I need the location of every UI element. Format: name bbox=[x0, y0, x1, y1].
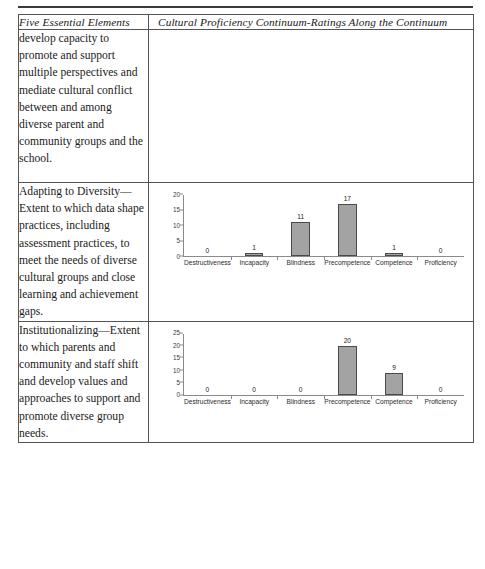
bar-value-label: 0 bbox=[206, 387, 210, 394]
y-axis-tick-label: 10 bbox=[173, 368, 180, 374]
bar-value-label: 0 bbox=[206, 248, 210, 255]
bar-value-label: 1 bbox=[392, 245, 396, 252]
x-axis-tick-label: Precompetence bbox=[324, 399, 371, 406]
y-axis-tick-mark bbox=[180, 345, 183, 346]
y-axis-tick-label: 10 bbox=[173, 223, 180, 229]
y-axis-tick-mark bbox=[180, 225, 183, 226]
bar-slot: 0 bbox=[277, 334, 324, 395]
plot-area: 05101520250002090 bbox=[183, 334, 464, 396]
x-axis-tick-label: Blindness bbox=[278, 260, 325, 267]
y-axis-tick-label: 20 bbox=[173, 343, 180, 349]
bar-slot: 17 bbox=[324, 195, 371, 256]
y-axis-tick-label: 20 bbox=[173, 192, 180, 198]
bar-value-label: 9 bbox=[392, 365, 396, 372]
y-axis-tick-label: 15 bbox=[173, 207, 180, 213]
table-row: Institutionalizing—Extent to which paren… bbox=[19, 321, 474, 442]
bar-slot: 0 bbox=[417, 195, 464, 256]
element-description-0: develop capacity to promote and support … bbox=[19, 30, 149, 183]
bar-slot: 1 bbox=[371, 195, 418, 256]
bar-slot: 1 bbox=[231, 195, 278, 256]
x-axis-tick-label: Destructiveness bbox=[184, 399, 231, 406]
bar-slot: 20 bbox=[324, 334, 371, 395]
table-header-row: Five Essential Elements Cultural Profici… bbox=[19, 15, 474, 30]
bar-chart-adapting-to-diversity: 0510152001111710DestructivenessIncapacit… bbox=[149, 183, 474, 275]
bar bbox=[245, 253, 264, 256]
bar-value-label: 0 bbox=[439, 387, 443, 394]
bar-value-label: 0 bbox=[439, 248, 443, 255]
chart-cell-adapting-to-diversity: 0510152001111710DestructivenessIncapacit… bbox=[149, 183, 474, 322]
bar-value-label: 0 bbox=[252, 387, 256, 394]
bar-group: 01111710 bbox=[184, 195, 464, 256]
bar-value-label: 11 bbox=[297, 214, 304, 221]
x-axis-tick-label: Precompetence bbox=[324, 260, 371, 267]
bar-chart-institutionalizing: 05101520250002090DestructivenessIncapaci… bbox=[149, 322, 474, 414]
x-axis-tick-label: Competence bbox=[371, 399, 418, 406]
y-axis-tick-mark bbox=[180, 357, 183, 358]
x-axis-tick-label: Blindness bbox=[278, 399, 325, 406]
cultural-proficiency-table: Five Essential Elements Cultural Profici… bbox=[18, 14, 474, 443]
element-description-1: Adapting to Diversity—Extent to which da… bbox=[19, 183, 149, 322]
x-axis-tick-label: Destructiveness bbox=[184, 260, 231, 267]
y-axis-tick-mark bbox=[180, 369, 183, 370]
table-container: Five Essential Elements Cultural Profici… bbox=[18, 14, 473, 443]
x-axis-labels: DestructivenessIncapacityBlindnessPrecom… bbox=[184, 260, 464, 267]
bar bbox=[338, 204, 357, 256]
y-axis-tick-mark bbox=[180, 240, 183, 241]
bar bbox=[385, 253, 404, 256]
y-axis-tick-mark bbox=[180, 394, 183, 395]
x-axis-tick-label: Incapacity bbox=[231, 260, 278, 267]
chart-cell-institutionalizing: 05101520250002090DestructivenessIncapaci… bbox=[149, 321, 474, 442]
bar-slot: 0 bbox=[417, 334, 464, 395]
y-axis-tick-label: 15 bbox=[173, 355, 180, 361]
bar-slot: 11 bbox=[277, 195, 324, 256]
element-description-2: Institutionalizing—Extent to which paren… bbox=[19, 321, 149, 442]
bar-value-label: 20 bbox=[344, 338, 351, 345]
y-axis-tick-mark bbox=[180, 194, 183, 195]
y-axis-tick-mark bbox=[180, 382, 183, 383]
bar-value-label: 17 bbox=[344, 196, 351, 203]
bar-value-label: 0 bbox=[299, 387, 303, 394]
plot-area: 0510152001111710 bbox=[183, 195, 464, 257]
bar-slot: 0 bbox=[231, 334, 278, 395]
bar bbox=[385, 373, 404, 395]
bar-slot: 9 bbox=[371, 334, 418, 395]
x-axis-tick-label: Competence bbox=[371, 260, 418, 267]
y-axis-tick-mark bbox=[180, 256, 183, 257]
bar bbox=[338, 346, 357, 395]
bar-value-label: 1 bbox=[252, 245, 256, 252]
bar-group: 0002090 bbox=[184, 334, 464, 395]
x-axis-tick-label: Incapacity bbox=[231, 399, 278, 406]
top-rule-divider bbox=[18, 6, 473, 8]
bar-slot: 0 bbox=[184, 195, 231, 256]
header-continuum-ratings: Cultural Proficiency Continuum-Ratings A… bbox=[149, 15, 474, 30]
x-axis-tick-label: Proficiency bbox=[417, 399, 464, 406]
header-five-essential-elements: Five Essential Elements bbox=[19, 15, 149, 30]
y-axis-tick-mark bbox=[180, 209, 183, 210]
y-axis-tick-mark bbox=[180, 332, 183, 333]
x-axis-labels: DestructivenessIncapacityBlindnessPrecom… bbox=[184, 399, 464, 406]
bar bbox=[291, 222, 310, 256]
document-page: Five Essential Elements Cultural Profici… bbox=[0, 0, 485, 569]
empty-chart-area bbox=[149, 30, 473, 182]
table-row: Adapting to Diversity—Extent to which da… bbox=[19, 183, 474, 322]
table-row: develop capacity to promote and support … bbox=[19, 30, 474, 183]
x-axis-tick-label: Proficiency bbox=[417, 260, 464, 267]
y-axis-tick-label: 25 bbox=[173, 330, 180, 336]
bar-slot: 0 bbox=[184, 334, 231, 395]
chart-cell-empty bbox=[149, 30, 474, 183]
